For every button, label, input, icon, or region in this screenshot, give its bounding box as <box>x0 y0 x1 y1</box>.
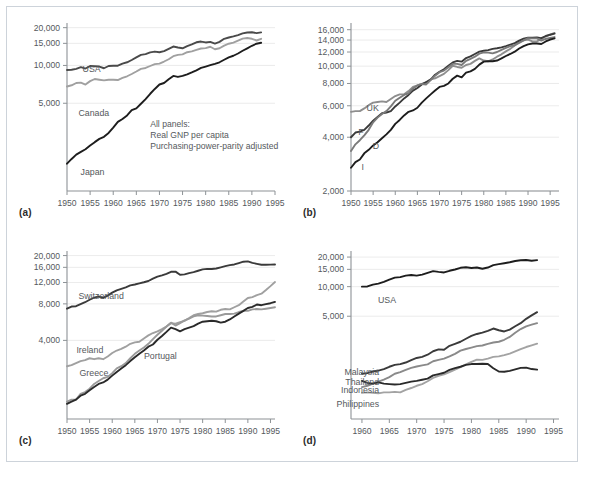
x-axis-tick-label: 1960 <box>103 426 122 436</box>
x-axis-tick-label: 1970 <box>148 426 167 436</box>
x-axis-tick-label: 1955 <box>80 426 99 436</box>
series-line-canada <box>67 38 261 87</box>
y-axis-tick-label: 12,000 <box>318 47 345 57</box>
x-axis-tick-label: 1970 <box>150 198 169 208</box>
y-axis-tick-label: 4,000 <box>38 335 60 345</box>
panel-annotation-line: Purchasing-power-parity adjusted <box>150 141 278 151</box>
series-label-usa: USA <box>378 295 396 305</box>
x-axis-tick-label: 1965 <box>127 198 146 208</box>
panel-annotation-line: Real GNP per capita <box>150 130 229 140</box>
x-axis-tick-label: 1985 <box>496 198 515 208</box>
series-label-d: D <box>373 141 379 151</box>
x-axis-tick-label: 1960 <box>104 198 123 208</box>
x-axis-tick-label: 1980 <box>462 426 481 436</box>
plot-b: 2,0004,0006,0008,00010,00012,00014,00016… <box>299 11 571 233</box>
x-axis-tick-label: 1985 <box>489 426 508 436</box>
y-axis-tick-label: 8,000 <box>38 299 60 309</box>
x-axis-tick-label: 1990 <box>517 426 536 436</box>
series-line-f <box>351 34 555 138</box>
x-axis-tick-label: 1975 <box>170 426 189 436</box>
y-axis-tick-label: 20,000 <box>34 251 61 261</box>
plot-c: 4,0008,00012,00016,00020,000195019551960… <box>15 239 287 461</box>
y-axis-tick-label: 15,000 <box>318 264 345 274</box>
series-label-japan: Japan <box>81 167 105 177</box>
x-axis-tick-label: 1950 <box>57 198 76 208</box>
chart-panel-c: 4,0008,00012,00016,00020,000195019551960… <box>15 239 287 461</box>
series-line-thailand <box>362 323 537 387</box>
series-line-uk <box>351 33 555 112</box>
series-label-portugal: Portugal <box>144 351 177 361</box>
chart-panel-a: 5,00010,00015,00020,00019501955196019651… <box>15 11 287 233</box>
x-axis-tick-label: 1980 <box>196 198 215 208</box>
plot-a: 5,00010,00015,00020,00019501955196019651… <box>15 11 287 233</box>
series-label-f: F <box>358 127 364 137</box>
x-axis-tick-label: 1995 <box>261 426 280 436</box>
series-label-switzerland: Switzerland <box>78 291 124 301</box>
x-axis-tick-label: 1975 <box>434 426 453 436</box>
panel-label-a: (a) <box>19 207 32 218</box>
x-axis-tick-label: 1950 <box>341 198 360 208</box>
y-axis-tick-label: 16,000 <box>318 25 345 35</box>
series-label-malaysia: Malaysia <box>344 367 379 377</box>
x-axis-tick-label: 1965 <box>380 426 399 436</box>
series-line-d <box>351 37 555 151</box>
x-axis-tick-label: 1970 <box>430 198 449 208</box>
y-axis-tick-label: 12,000 <box>34 277 61 287</box>
x-axis-tick-label: 1985 <box>219 198 238 208</box>
series-label-canada: Canada <box>78 108 109 118</box>
y-axis-tick-label: 20,000 <box>318 252 345 262</box>
chart-panel-b: 2,0004,0006,0008,00010,00012,00014,00016… <box>299 11 571 233</box>
y-axis-tick-label: 14,000 <box>318 35 345 45</box>
series-label-greece: Greece <box>80 368 109 378</box>
series-line-indonesia <box>362 344 537 394</box>
x-axis-tick-label: 1965 <box>408 198 427 208</box>
x-axis-tick-label: 1995 <box>265 198 284 208</box>
x-axis-tick-label: 1980 <box>474 198 493 208</box>
y-axis-tick-label: 15,000 <box>34 38 61 48</box>
x-axis-tick-label: 1955 <box>364 198 383 208</box>
x-axis-tick-label: 1990 <box>238 426 257 436</box>
y-axis-tick-label: 4,000 <box>322 132 344 142</box>
series-label-indonesia: Indonesia <box>341 385 379 395</box>
y-axis-tick-label: 8,000 <box>322 78 344 88</box>
y-axis-tick-label: 10,000 <box>318 61 345 71</box>
x-axis-tick-label: 1970 <box>407 426 426 436</box>
x-axis-tick-label: 1990 <box>242 198 261 208</box>
y-axis-tick-label: 20,000 <box>34 23 61 33</box>
series-label-i: I <box>361 162 363 172</box>
y-axis-tick-label: 16,000 <box>34 262 61 272</box>
x-axis-tick-label: 1985 <box>216 426 235 436</box>
series-label-ireland: Ireland <box>76 345 103 355</box>
chart-panel-d: 5,00010,00015,00020,00019601965197019751… <box>299 239 571 461</box>
x-axis-tick-label: 1990 <box>518 198 537 208</box>
y-axis-tick-label: 10,000 <box>318 282 345 292</box>
plot-d: 5,00010,00015,00020,00019601965197019751… <box>299 239 571 461</box>
y-axis-tick-label: 10,000 <box>34 60 61 70</box>
y-axis-tick-label: 6,000 <box>322 101 344 111</box>
y-axis-tick-label: 5,000 <box>322 311 344 321</box>
panel-label-c: (c) <box>19 435 32 446</box>
panel-annotation-line: All panels: <box>150 119 190 129</box>
series-label-usa: USA <box>83 64 101 74</box>
x-axis-tick-label: 1950 <box>57 426 76 436</box>
x-axis-tick-label: 1995 <box>541 198 560 208</box>
x-axis-tick-label: 1975 <box>173 198 192 208</box>
series-line-malaysia <box>362 312 537 374</box>
y-axis-tick-label: 2,000 <box>322 186 344 196</box>
x-axis-tick-label: 1975 <box>452 198 471 208</box>
x-axis-tick-label: 1995 <box>544 426 563 436</box>
x-axis-tick-label: 1965 <box>125 426 144 436</box>
series-label-uk: UK <box>367 103 379 113</box>
x-axis-tick-label: 1955 <box>81 198 100 208</box>
x-axis-tick-label: 1960 <box>386 198 405 208</box>
panel-label-d: (d) <box>303 435 316 446</box>
x-axis-tick-label: 1980 <box>193 426 212 436</box>
panel-label-b: (b) <box>303 207 316 218</box>
series-label-philippines: Philippines <box>337 399 380 409</box>
x-axis-tick-label: 1960 <box>352 426 371 436</box>
y-axis-tick-label: 5,000 <box>38 98 60 108</box>
figure-container: 5,00010,00015,00020,00019501955196019651… <box>6 6 578 462</box>
series-line-usa <box>362 260 537 287</box>
series-line-i <box>351 38 555 167</box>
